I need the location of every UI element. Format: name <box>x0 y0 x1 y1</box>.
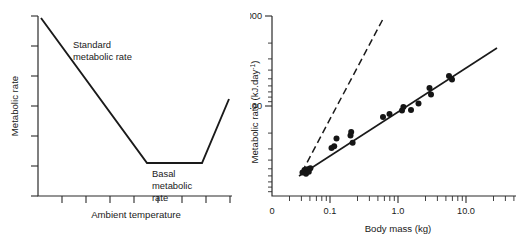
data-point <box>334 136 340 142</box>
basal-label-line1: Basal <box>152 168 175 179</box>
right-x-tick-label-1-0: 1.0 <box>392 206 405 216</box>
data-point <box>449 77 455 83</box>
data-point <box>387 111 393 117</box>
right-x-axis-label: Body mass (kg) <box>365 223 432 234</box>
right-x-minor-ticks <box>290 196 514 201</box>
data-point <box>416 101 422 107</box>
data-point <box>331 143 337 149</box>
annotation-standard-metabolic-rate: Standard metabolic rate <box>73 39 132 62</box>
right-y-major-ticks <box>265 16 272 106</box>
data-point <box>400 104 406 110</box>
right-x-tick-label-0-1: 0.1 <box>324 206 337 216</box>
figure-metabolic-rate-panels: Metabolic rate Ambient temperature Stand… <box>0 0 527 242</box>
left-y-ticks <box>31 16 38 196</box>
standard-label-line2: metabolic rate <box>73 51 132 62</box>
data-point <box>428 92 434 98</box>
regression-line <box>299 48 497 176</box>
standard-label-line1: Standard <box>73 39 111 50</box>
annotation-basal-metabolic-rate: Basal metabolic rate <box>152 168 192 203</box>
right-y-tick-label-1000: 1000 <box>250 11 262 21</box>
basal-label-line3: rate <box>152 192 168 203</box>
data-point <box>350 140 356 146</box>
isometric-reference-line <box>302 19 383 172</box>
basal-label-line2: metabolic <box>152 180 192 191</box>
right-x-tick-label-10-0: 10.0 <box>457 206 475 216</box>
right-y-axis-label-suffix: ) <box>250 61 260 64</box>
left-chart-svg: Metabolic rate Ambient temperature Stand… <box>0 0 250 242</box>
data-point <box>380 114 386 120</box>
right-chart-svg: 1000 100 <box>250 0 527 242</box>
right-y-axis-label-main: Metabolic rate (kJ.day <box>250 69 260 163</box>
left-y-axis-label: Metabolic rate <box>9 76 20 136</box>
left-x-ticks <box>62 196 230 203</box>
right-x-tick-label-0: 0 <box>269 206 274 216</box>
left-axes <box>38 16 232 196</box>
data-point <box>348 129 354 135</box>
right-y-minor-ticks <box>268 43 272 192</box>
data-point <box>427 85 433 91</box>
panel-standard-basal-metabolic-rate: Metabolic rate Ambient temperature Stand… <box>0 0 250 242</box>
data-point <box>408 107 414 113</box>
panel-body-mass-vs-metabolic-rate: 1000 100 <box>250 0 527 242</box>
data-point <box>307 165 313 171</box>
left-x-axis-label: Ambient temperature <box>91 209 181 220</box>
right-y-axis-label: Metabolic rate (kJ.day-1) <box>250 61 260 164</box>
left-metabolic-rate-curve <box>41 18 229 163</box>
